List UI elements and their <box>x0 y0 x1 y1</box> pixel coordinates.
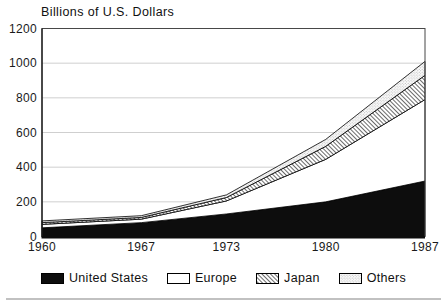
legend-swatch-europe <box>167 273 190 284</box>
legend-label-europe: Europe <box>195 271 237 285</box>
chart-legend: United StatesEuropeJapanOthers <box>0 271 447 285</box>
legend-label-others: Others <box>367 271 406 285</box>
x-tick-label-1980: 1980 <box>312 240 340 254</box>
x-tick-label-1967: 1967 <box>127 240 155 254</box>
bottom-scan-artifact <box>6 298 441 300</box>
legend-item-japan: Japan <box>256 271 320 285</box>
x-tick-label-1973: 1973 <box>212 240 240 254</box>
chart-figure: Billions of U.S. Dollars 020040060080010… <box>0 0 447 304</box>
legend-label-japan: Japan <box>284 271 320 285</box>
y-tick-label-600: 600 <box>16 126 37 140</box>
legend-swatch-others <box>339 273 362 284</box>
x-tick-label-1960: 1960 <box>28 240 56 254</box>
legend-label-united-states: United States <box>69 271 148 285</box>
legend-swatch-united-states <box>41 273 64 284</box>
y-tick-label-1200: 1200 <box>9 22 37 36</box>
y-tick-label-1000: 1000 <box>9 56 37 70</box>
legend-item-europe: Europe <box>167 271 237 285</box>
y-tick-label-400: 400 <box>16 160 37 174</box>
stacked-area-chart: 0200400600800100012001960196719731980198… <box>0 0 447 304</box>
y-tick-label-200: 200 <box>16 195 37 209</box>
legend-item-others: Others <box>339 271 406 285</box>
legend-item-united-states: United States <box>41 271 148 285</box>
y-tick-label-800: 800 <box>16 91 37 105</box>
legend-swatch-japan <box>256 273 279 284</box>
x-tick-label-1987: 1987 <box>411 240 439 254</box>
